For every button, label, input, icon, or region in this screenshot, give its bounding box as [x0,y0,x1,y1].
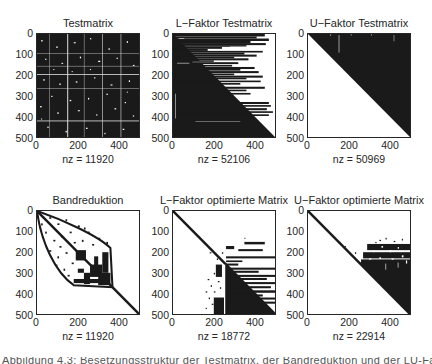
y-tick: 300 [15,91,33,101]
y-tick: 100 [151,226,169,236]
y-tick: 400 [286,289,304,299]
x-tick: 0 [304,139,310,151]
y-tick: 500 [15,133,33,143]
x-tick: 400 [110,139,128,151]
y-tick: 200 [286,247,304,257]
y-tick: 0 [27,205,33,215]
y-tick: 500 [151,133,169,143]
x-tick: 200 [340,139,358,151]
y-tick: 200 [151,70,169,80]
x-tick: 0 [169,139,175,151]
plot-title: U−Faktor optimierte Matrix [287,194,431,206]
spy-plot-bandreduktion: Bandreduktion 0 100 200 30 [36,210,140,315]
plot-title: L−Faktor Testmatrix [152,17,296,29]
x-tick: 0 [304,316,310,328]
plot-area [307,33,411,138]
x-tick: 400 [246,139,264,151]
y-tick: 200 [15,70,33,80]
spy-plot-u-factor-optimized: U−Faktor optimierte Matrix 0 100 200 30 [307,210,411,315]
y-tick: 400 [15,289,33,299]
figure-caption: Abbildung 4.3: Besetzungsstruktur der Te… [0,357,432,364]
y-tick: 200 [15,247,33,257]
y-tick: 0 [27,28,33,38]
y-tick: 500 [151,310,169,320]
y-tick: 200 [151,247,169,257]
y-tick: 200 [286,70,304,80]
x-tick: 400 [246,316,264,328]
plot-area [172,33,276,138]
y-tick: 0 [163,28,169,38]
nz-label: nz = 50969 [307,153,411,165]
x-tick: 200 [69,316,87,328]
spy-plot-l-factor-optimized: L−Faktor optimierte Matrix [172,210,276,315]
x-tick: 200 [340,316,358,328]
y-tick: 500 [15,310,33,320]
x-tick: 0 [33,316,39,328]
x-tick: 400 [381,316,399,328]
spy-plot-testmatrix: Testmatrix [36,33,140,138]
spy-plot-u-factor-testmatrix: U−Faktor Testmatrix 0 100 200 300 400 50… [307,33,411,138]
plot-title: U−Faktor Testmatrix [287,17,431,29]
plot-area [36,33,140,138]
y-tick: 100 [15,49,33,59]
y-tick: 0 [298,205,304,215]
x-tick: 200 [205,139,223,151]
y-tick: 100 [151,49,169,59]
plot-title: Testmatrix [16,17,160,29]
x-tick: 0 [33,139,39,151]
y-tick: 0 [298,28,304,38]
nz-label: nz = 18772 [172,330,276,342]
spy-plot-l-factor-testmatrix: L−Faktor Testmatrix [172,33,276,138]
nz-label: nz = 52106 [172,153,276,165]
y-tick: 300 [15,268,33,278]
x-tick: 400 [110,316,128,328]
nz-label: nz = 11920 [36,330,140,342]
caption-text: Abbildung 4.3: Besetzungsstruktur der Te… [0,357,432,364]
x-tick: 400 [381,139,399,151]
y-tick: 500 [286,310,304,320]
plot-area [36,210,140,315]
nz-label: nz = 22914 [307,330,411,342]
y-tick: 100 [15,226,33,236]
y-tick: 400 [15,112,33,122]
plot-title: Bandreduktion [16,194,160,206]
y-tick: 400 [151,289,169,299]
x-tick: 0 [169,316,175,328]
y-tick: 400 [286,112,304,122]
y-tick: 100 [286,49,304,59]
plot-title: L−Faktor optimierte Matrix [152,194,296,206]
nz-label: nz = 11920 [36,153,140,165]
plot-area [307,210,411,315]
y-tick: 0 [163,205,169,215]
plot-area [172,210,276,315]
y-tick: 300 [286,268,304,278]
x-tick: 200 [205,316,223,328]
y-tick: 400 [151,112,169,122]
y-tick: 300 [286,91,304,101]
y-tick: 300 [151,91,169,101]
y-tick: 500 [286,133,304,143]
y-tick: 100 [286,226,304,236]
x-tick: 200 [69,139,87,151]
y-tick: 300 [151,268,169,278]
